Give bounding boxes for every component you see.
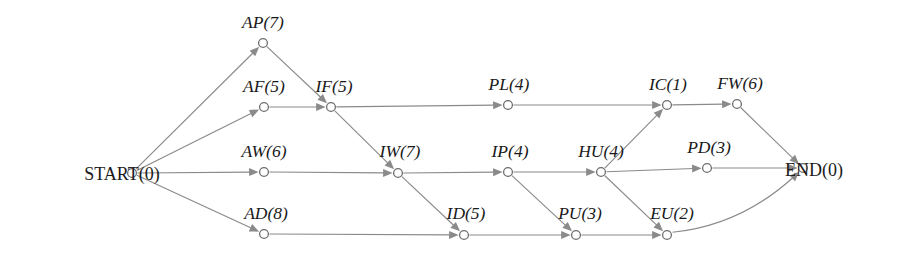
arrowhead-icon	[449, 231, 459, 239]
arrowhead-icon	[561, 231, 571, 239]
arrowhead-icon	[722, 100, 732, 108]
node-label-ap: AP(7)	[241, 12, 284, 32]
node-label-id: ID(5)	[446, 203, 486, 223]
edge-ic-to-fw	[672, 100, 731, 108]
edge-aw-to-iw	[269, 169, 392, 177]
node-label-pd: PD(3)	[686, 137, 731, 157]
node-label-ic: IC(1)	[648, 74, 687, 94]
edge-pl-to-ic	[513, 101, 661, 109]
edge-hu-to-pd	[606, 165, 701, 173]
node-ip[interactable]	[504, 168, 513, 177]
edge-if-to-pl	[336, 101, 502, 109]
edge-fw-to-end	[741, 108, 799, 164]
node-ad[interactable]	[260, 230, 269, 239]
network-diagram: START(0)AP(7)AF(5)AW(6)AD(8)IF(5)IW(7)ID…	[0, 0, 904, 261]
node-label-fw: FW(6)	[716, 73, 763, 93]
node-hu[interactable]	[597, 168, 606, 177]
arrowhead-icon	[383, 169, 393, 177]
edge-ad-to-id	[269, 231, 458, 239]
edge-af-to-if	[269, 103, 325, 111]
node-label-ip: IP(4)	[491, 141, 529, 161]
node-eu[interactable]	[663, 231, 672, 240]
node-label-pl: PL(4)	[488, 74, 530, 94]
edge-ip-to-hu	[513, 168, 595, 176]
node-label-eu: EU(2)	[649, 203, 694, 223]
node-label-ad: AD(8)	[243, 203, 288, 223]
arrowhead-icon	[316, 103, 326, 111]
node-iw[interactable]	[394, 169, 403, 178]
node-ic[interactable]	[663, 101, 672, 110]
node-label-af: AF(5)	[242, 76, 285, 96]
edge-pu-to-eu	[581, 231, 661, 239]
node-label-hu: HU(4)	[577, 141, 624, 161]
node-ap[interactable]	[259, 39, 268, 48]
arrowhead-icon	[652, 101, 662, 109]
arrowhead-icon	[652, 231, 662, 239]
node-label-iw: IW(7)	[379, 141, 421, 161]
label-layer: START(0)AP(7)AF(5)AW(6)AD(8)IF(5)IW(7)ID…	[84, 12, 843, 223]
node-fw[interactable]	[733, 100, 742, 109]
arrowhead-icon	[493, 101, 503, 109]
node-aw[interactable]	[260, 168, 269, 177]
arrowhead-icon	[692, 165, 702, 173]
node-af[interactable]	[260, 103, 269, 112]
node-pd[interactable]	[703, 164, 712, 173]
node-id[interactable]	[460, 231, 469, 240]
arrowhead-icon	[493, 168, 503, 176]
node-pl[interactable]	[504, 101, 513, 110]
edge-iw-to-ip	[403, 168, 502, 176]
edge-start-to-af	[137, 109, 259, 170]
node-label-pu: PU(3)	[557, 203, 602, 223]
node-if[interactable]	[327, 103, 336, 112]
arrowhead-icon	[249, 168, 259, 176]
edge-id-to-pu	[469, 231, 570, 239]
node-label-aw: AW(6)	[240, 141, 286, 161]
node-pu[interactable]	[572, 231, 581, 240]
node-label-end: END(0)	[785, 160, 843, 181]
node-label-if: IF(5)	[315, 76, 353, 96]
node-label-start: START(0)	[84, 164, 159, 185]
arrowhead-icon	[586, 168, 596, 176]
